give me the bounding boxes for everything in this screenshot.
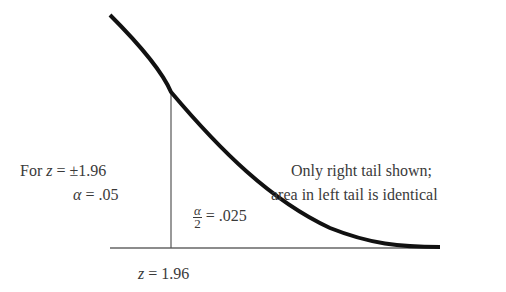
tail-diagram — [0, 0, 506, 292]
fraction-denominator: 2 — [193, 218, 202, 230]
alpha-value: = .05 — [81, 186, 118, 203]
density-curve — [110, 15, 440, 247]
left-annotation-line2: α = .05 — [73, 186, 118, 204]
note-line1: Only right tail shown; — [291, 162, 432, 180]
tail-area-label: α 2 = .025 — [193, 205, 247, 230]
tail-area-value: = .025 — [202, 207, 247, 224]
critical-value-label: z = 1.96 — [138, 265, 189, 283]
left-annotation-line1: For z = ±1.96 — [20, 162, 106, 180]
equals: = — [144, 265, 161, 282]
z-value: = ±1.96 — [52, 162, 106, 179]
critical-value: 1.96 — [161, 265, 189, 282]
for-text: For — [20, 162, 46, 179]
note-line2: area in left tail is identical — [271, 186, 438, 204]
alpha-over-two: α 2 — [193, 205, 202, 230]
